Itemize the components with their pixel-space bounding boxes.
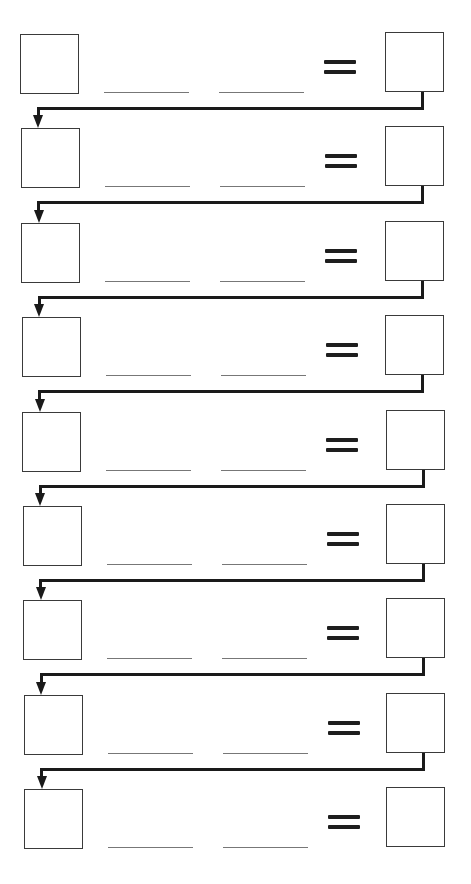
number-blank[interactable] (220, 281, 305, 282)
arrow-down-icon (34, 304, 44, 317)
number-blank[interactable] (222, 658, 307, 659)
equals-sign-icon (324, 60, 356, 74)
connector-drop-line (40, 673, 43, 682)
right-answer-box[interactable] (385, 32, 444, 92)
number-blank[interactable] (223, 753, 308, 754)
left-answer-box[interactable] (20, 34, 79, 94)
left-answer-box[interactable] (21, 223, 80, 283)
right-answer-box[interactable] (386, 410, 445, 470)
operator-blank[interactable] (105, 186, 190, 187)
left-answer-box[interactable] (24, 695, 83, 755)
connector-drop-line (38, 296, 41, 304)
left-answer-box[interactable] (23, 506, 82, 566)
equals-sign-icon (327, 626, 359, 640)
right-answer-box[interactable] (386, 787, 445, 847)
operator-blank[interactable] (107, 564, 192, 565)
equals-sign-icon (325, 249, 357, 263)
number-blank[interactable] (221, 470, 306, 471)
left-answer-box[interactable] (22, 412, 81, 472)
connector-horizontal-line (37, 107, 425, 110)
right-answer-box[interactable] (385, 126, 444, 186)
operator-blank[interactable] (106, 470, 191, 471)
equation-chain-worksheet (0, 0, 471, 884)
left-answer-box[interactable] (21, 128, 80, 188)
number-blank[interactable] (220, 186, 305, 187)
arrow-down-icon (35, 399, 45, 412)
right-answer-box[interactable] (385, 221, 444, 281)
operator-blank[interactable] (104, 92, 189, 93)
left-answer-box[interactable] (23, 600, 82, 660)
connector-horizontal-line (38, 296, 425, 299)
arrow-down-icon (36, 587, 46, 600)
arrow-down-icon (36, 682, 46, 695)
connector-drop-line (38, 390, 41, 399)
operator-blank[interactable] (105, 281, 190, 282)
right-answer-box[interactable] (385, 315, 444, 375)
arrow-down-icon (35, 493, 45, 506)
operator-blank[interactable] (106, 375, 191, 376)
connector-drop-line (39, 485, 42, 493)
equals-sign-icon (328, 721, 360, 735)
number-blank[interactable] (221, 375, 306, 376)
number-blank[interactable] (219, 92, 304, 93)
arrow-down-icon (34, 210, 44, 223)
right-answer-box[interactable] (386, 693, 445, 753)
operator-blank[interactable] (108, 753, 193, 754)
right-answer-box[interactable] (386, 598, 445, 658)
connector-drop-line (37, 201, 40, 210)
connector-horizontal-line (40, 673, 425, 676)
equals-sign-icon (326, 343, 358, 357)
operator-blank[interactable] (107, 658, 192, 659)
right-answer-box[interactable] (386, 504, 445, 564)
connector-horizontal-line (37, 201, 424, 204)
connector-drop-line (40, 768, 43, 776)
connector-drop-line (39, 579, 42, 587)
equals-sign-icon (328, 815, 360, 829)
left-answer-box[interactable] (22, 317, 81, 377)
left-answer-box[interactable] (24, 789, 83, 849)
number-blank[interactable] (222, 564, 307, 565)
connector-horizontal-line (39, 579, 425, 582)
connector-drop-line (37, 107, 40, 115)
equals-sign-icon (325, 154, 357, 168)
number-blank[interactable] (223, 847, 308, 848)
connector-horizontal-line (38, 390, 424, 393)
equals-sign-icon (327, 532, 359, 546)
arrow-down-icon (33, 115, 43, 128)
arrow-down-icon (37, 776, 47, 789)
connector-horizontal-line (39, 485, 425, 488)
connector-horizontal-line (40, 768, 425, 771)
operator-blank[interactable] (108, 847, 193, 848)
equals-sign-icon (326, 438, 358, 452)
